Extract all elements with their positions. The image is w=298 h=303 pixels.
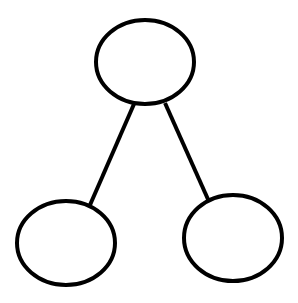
tree-diagram (0, 0, 298, 303)
node-right-child (184, 195, 282, 281)
node-root (96, 20, 194, 104)
node-left-child (17, 201, 115, 285)
